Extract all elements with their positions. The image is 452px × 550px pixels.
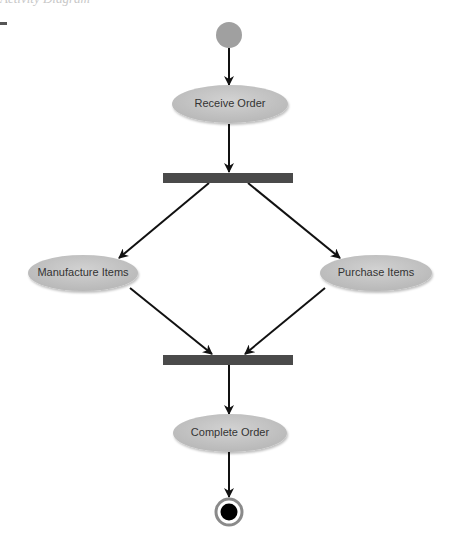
edge-manufacture-items-to-join bbox=[130, 288, 212, 354]
activity-label: Receive Order bbox=[195, 97, 266, 109]
diagram-svg: Receive Order Manufacture Items Purchase… bbox=[0, 0, 452, 550]
activity-manufacture-items[interactable]: Manufacture Items bbox=[28, 255, 138, 291]
join-bar[interactable] bbox=[163, 355, 293, 365]
activity-purchase-items[interactable]: Purchase Items bbox=[320, 255, 432, 291]
final-node-icon[interactable] bbox=[216, 499, 242, 525]
initial-node-icon[interactable] bbox=[216, 22, 242, 48]
activity-complete-order[interactable]: Complete Order bbox=[173, 414, 287, 452]
fork-bar[interactable] bbox=[163, 173, 293, 183]
activity-label: Manufacture Items bbox=[37, 266, 129, 278]
edge-purchase-items-to-join bbox=[245, 288, 325, 354]
activity-receive-order[interactable]: Receive Order bbox=[172, 85, 288, 123]
activity-label: Purchase Items bbox=[338, 266, 415, 278]
activity-label: Complete Order bbox=[191, 426, 270, 438]
edge-fork-to-manufacture-items bbox=[119, 183, 209, 258]
edge-fork-to-purchase-items bbox=[248, 183, 340, 258]
activity-diagram-canvas: Activity Diagram bbox=[0, 0, 452, 550]
